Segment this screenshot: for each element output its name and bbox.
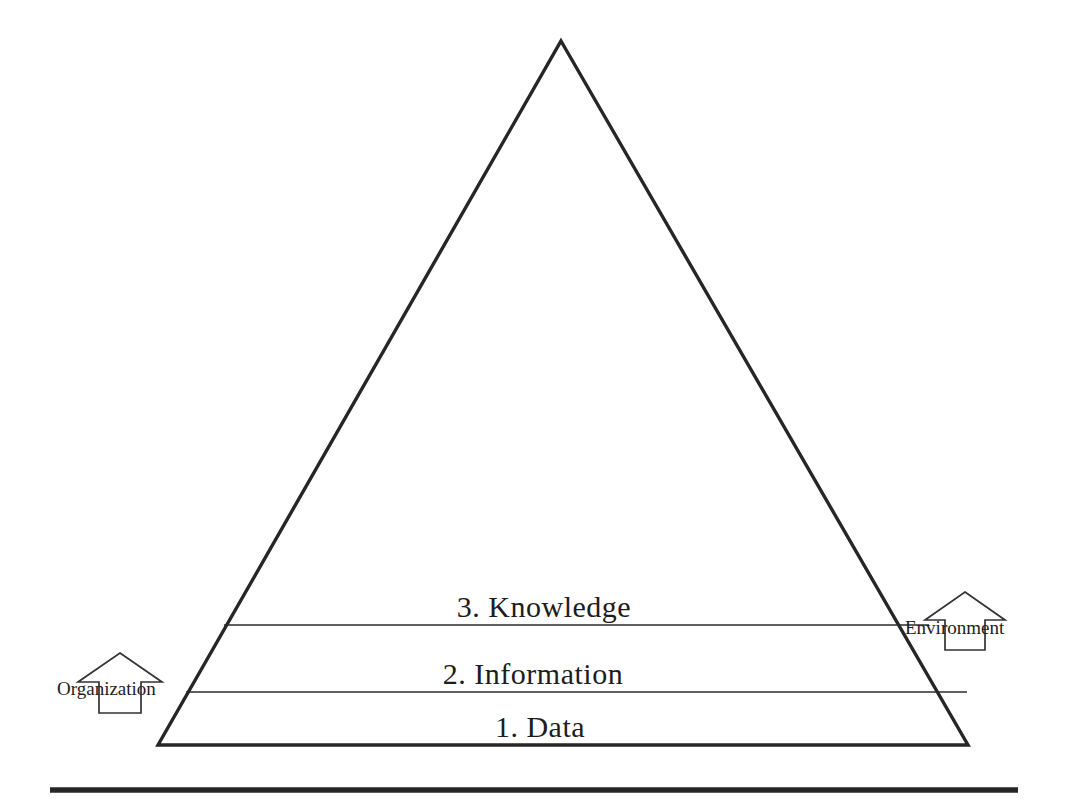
side-label-organization: Organization — [57, 679, 156, 698]
pyramid-outline — [158, 41, 968, 745]
tier-label-data: 1. Data — [4, 712, 1072, 742]
pyramid-diagram: 3. Knowledge 2. Information 1. Data Orga… — [0, 0, 1072, 800]
side-label-environment: Environment — [905, 618, 1004, 637]
tier-label-information: 2. Information — [0, 659, 1069, 689]
